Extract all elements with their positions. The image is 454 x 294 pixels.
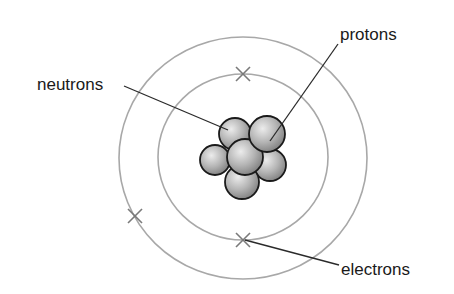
- electrons-label: electrons: [341, 261, 410, 278]
- protons-leader: [270, 44, 338, 141]
- protons-label: protons: [340, 26, 397, 43]
- nucleus: [200, 116, 286, 199]
- neutrons-leader: [124, 86, 228, 130]
- atom-diagram: [0, 0, 454, 294]
- neutrons-label: neutrons: [37, 76, 103, 93]
- electron-outer-left-x-icon: [128, 209, 142, 223]
- nucleon-left: [200, 145, 230, 175]
- electrons-leader: [245, 240, 339, 265]
- nucleon-top-right: [249, 116, 285, 152]
